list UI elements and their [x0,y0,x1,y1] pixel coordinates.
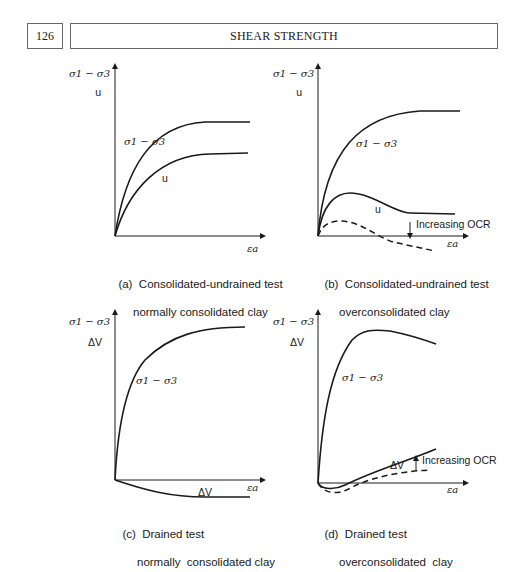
caption-b-label: (b) [324,278,338,290]
b-x-label: εa [447,238,458,249]
caption-c-line2: normally consolidated clay [116,555,275,569]
d-annotation-ocr: Increasing OCR [422,454,497,466]
caption-a-line2: normally consolidated clay [112,305,283,319]
d-y-label-2: ΔV [290,336,304,348]
caption-c-line1: Drained test [142,528,204,540]
a-curve-label-stress: σ1 − σ3 [124,136,165,147]
a-y-label-2: u [95,86,101,98]
caption-a: (a) Consolidated-undrained test normally… [112,263,283,333]
b-annotation-ocr: Increasing OCR [416,218,491,230]
d-x-label: εa [447,484,458,495]
caption-b-line1: Consolidated-undrained test [345,278,489,290]
c-y-label-1: σ1 − σ3 [69,316,110,327]
d-curve-label-stress: σ1 − σ3 [342,372,383,383]
caption-b: (b) Consolidated-undrained test overcons… [318,263,489,333]
panel-c [115,312,263,497]
a-curve-label-u: u [162,172,168,184]
c-y-label-2: ΔV [88,336,102,348]
caption-d-label: (d) [324,528,338,540]
caption-d: (d) Drained test overconsolidated clay [318,513,453,572]
panel-a [115,66,263,236]
c-x-label: εa [247,482,258,493]
caption-d-line1: Drained test [345,528,407,540]
caption-c: (c) Drained test normally consolidated c… [116,513,275,572]
b-curve-label-u: u [375,203,381,215]
d-curve-label-dv: ΔV [390,459,404,471]
b-curve-label-stress: σ1 − σ3 [356,138,397,149]
caption-b-line2: overconsolidated clay [318,305,489,319]
c-curve-label-dv: ΔV [198,486,212,498]
a-x-label: εa [247,243,258,254]
c-curve-label-stress: σ1 − σ3 [136,375,177,386]
a-y-label-1: σ1 − σ3 [69,68,110,79]
caption-a-label: (a) [118,278,132,290]
b-y-label-1: σ1 − σ3 [273,68,314,79]
caption-c-label: (c) [122,528,135,540]
b-y-label-2: u [296,86,302,98]
caption-a-line1: Consolidated-undrained test [139,278,283,290]
caption-d-line2: overconsolidated clay [318,555,453,569]
